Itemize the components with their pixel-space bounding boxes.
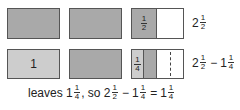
- row2-quarter-dark: [144, 50, 157, 78]
- row2-whole-1-label: 1: [30, 57, 37, 71]
- row2-whole-1: 1: [7, 49, 60, 79]
- row1-half-box: 1 2: [131, 8, 184, 39]
- row1-whole-2: [69, 8, 122, 39]
- row2-quarter-box: 1 4: [131, 49, 184, 79]
- row2-label: 2 12 − 1 14: [192, 54, 235, 71]
- row1-half-fraction: 1 2: [141, 15, 147, 32]
- row1-whole-1: [7, 8, 60, 39]
- row2-dashed-divider: [170, 52, 171, 76]
- row2-quarter-fraction: 1 4: [134, 56, 140, 73]
- row2-whole-2: [69, 49, 122, 79]
- row2-quarter-light: 1 4: [132, 50, 144, 78]
- row1-half-shaded: 1 2: [132, 9, 157, 38]
- row1-label: 2 12: [192, 14, 207, 31]
- caption: leaves 1 14 , so 2 12 − 1 14 = 1 14: [28, 84, 175, 101]
